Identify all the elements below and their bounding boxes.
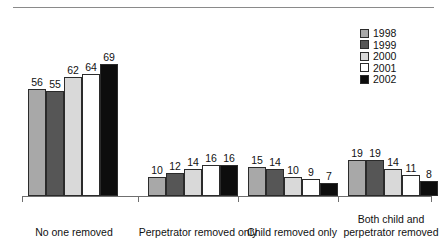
bar-slot: 14 [184,169,202,196]
bar-slot: 62 [64,77,82,196]
bar-value-label: 64 [85,62,97,73]
axis-tick [431,197,432,202]
bar[interactable] [366,160,384,196]
bar-value-label: 15 [251,155,263,166]
bar-value-label: 56 [31,77,43,88]
bar-value-label: 16 [223,153,235,164]
bar-slot: 19 [348,160,366,196]
legend-item[interactable]: 2001 [360,63,396,73]
bar-slot: 56 [28,89,46,196]
bar[interactable] [202,165,220,196]
bar-value-label: 62 [67,65,79,76]
bar[interactable] [302,179,320,196]
bar[interactable] [46,91,64,196]
bar[interactable] [184,169,202,196]
legend-label: 1999 [373,40,396,50]
bar-slot: 14 [384,169,402,196]
bar-slot: 9 [302,179,320,196]
bar-value-label: 16 [205,153,217,164]
bar-value-label: 19 [369,148,381,159]
category-label: No one removed [14,226,134,239]
bar[interactable] [402,175,420,196]
legend-item[interactable]: 1999 [360,40,396,50]
legend-item[interactable]: 1998 [360,28,396,38]
legend-swatch [360,75,369,84]
bar-value-label: 12 [169,161,181,172]
legend-swatch [360,40,369,49]
category-label: Child removed only [232,226,352,239]
bar[interactable] [266,169,284,196]
bar[interactable] [284,177,302,196]
bar-slot: 15 [248,167,266,196]
bar[interactable] [166,173,184,196]
bar-value-label: 19 [351,148,363,159]
bar-value-label: 14 [269,157,281,168]
legend-label: 2002 [373,74,396,84]
bar-slot: 8 [420,181,438,196]
bar[interactable] [82,74,100,196]
axis-tick [238,197,239,202]
bar-slot: 69 [100,64,118,196]
legend-label: 1998 [373,28,396,38]
legend-swatch [360,52,369,61]
legend-label: 2001 [373,63,396,73]
bar[interactable] [420,181,438,196]
bar-group: 5655626469 [28,64,118,196]
bar-value-label: 10 [151,165,163,176]
bar-value-label: 11 [406,163,417,174]
bar-group: 15141097 [248,167,338,196]
bar-slot: 64 [82,74,100,196]
bar-slot: 14 [266,169,284,196]
legend-label: 2000 [373,51,396,61]
bar-value-label: 9 [308,167,314,178]
bar-group: 1012141616 [148,165,238,196]
bar[interactable] [148,177,166,196]
bar-value-label: 14 [387,157,399,168]
bar-slot: 16 [220,165,238,196]
bar-value-label: 55 [49,79,61,90]
bar-chart: 19981999200020012002 5655626469No one re… [0,0,446,244]
bar-value-label: 8 [426,169,432,180]
bar[interactable] [100,64,118,196]
bar-slot: 11 [402,175,420,196]
bar-slot: 19 [366,160,384,196]
bar[interactable] [248,167,266,196]
bar-slot: 10 [284,177,302,196]
bar-slot: 55 [46,91,64,196]
bar[interactable] [348,160,366,196]
bar-group: 191914118 [348,160,438,196]
bar[interactable] [220,165,238,196]
bar-value-label: 14 [187,157,199,168]
x-axis-baseline [22,196,432,197]
legend-item[interactable]: 2002 [360,74,396,84]
axis-tick [338,197,339,202]
bar-value-label: 69 [103,52,115,63]
bar-value-label: 7 [326,171,332,182]
legend-swatch [360,63,369,72]
axis-tick [22,197,23,202]
bar[interactable] [64,77,82,196]
legend-swatch [360,29,369,38]
bar[interactable] [28,89,46,196]
bar[interactable] [320,183,338,196]
legend: 19981999200020012002 [360,28,396,84]
legend-item[interactable]: 2000 [360,51,396,61]
bar-slot: 10 [148,177,166,196]
bar[interactable] [384,169,402,196]
bar-slot: 12 [166,173,184,196]
bar-slot: 16 [202,165,220,196]
bar-value-label: 10 [287,165,299,176]
category-label: Both child and perpetrator removed [336,213,446,238]
bar-slot: 7 [320,183,338,196]
axis-tick [138,197,139,202]
